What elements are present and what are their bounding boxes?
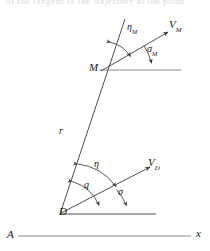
vector-label-v-d-sub: D <box>155 164 160 171</box>
axis-label-x: x <box>196 228 201 239</box>
vector-label-v-d-base: V <box>148 156 155 168</box>
diagram-svg <box>0 0 210 251</box>
velocity-vector-D <box>61 167 150 213</box>
velocity-vector-M <box>101 32 168 71</box>
angle-label-sigma: σ <box>118 187 123 197</box>
vector-label-v-m-sub: M <box>176 26 182 33</box>
length-label-r: r <box>59 126 63 136</box>
axis-origin-label-A: A <box>7 229 14 240</box>
angle-label-eta-m-sub: M <box>132 28 137 35</box>
vector-label-v-m-base: V <box>169 18 176 30</box>
figure-canvas: of the tangent to the trajectory at the … <box>0 0 210 251</box>
angle-label-sigma-m-sub: M <box>152 50 157 57</box>
point-label-D: D <box>59 206 67 217</box>
angle-label-eta-m: ηM <box>127 22 137 34</box>
angle-label-sigma-m: σM <box>147 44 157 56</box>
point-label-M: M <box>89 62 98 73</box>
vector-label-v-d: VD <box>148 157 160 171</box>
angle-label-q: q <box>84 180 89 190</box>
vector-label-v-m: VM <box>169 19 181 33</box>
angle-label-eta: η <box>94 159 99 169</box>
